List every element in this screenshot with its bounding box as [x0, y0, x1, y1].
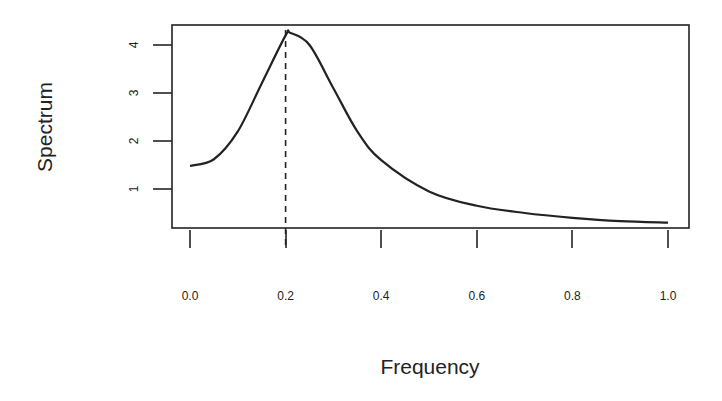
y-axis: [153, 45, 172, 189]
x-tick-label: 0.8: [564, 289, 581, 303]
y-tick-label: 1: [127, 185, 141, 192]
x-tick-label: 1.0: [660, 289, 677, 303]
x-tick-label: 0.2: [277, 289, 294, 303]
y-tick-label: 2: [127, 137, 141, 144]
y-tick-label: 4: [127, 41, 141, 48]
x-tick-label: 0.6: [468, 289, 485, 303]
spectrum-curve: [190, 30, 668, 222]
x-tick-label: 0.0: [182, 289, 199, 303]
x-axis: [190, 230, 668, 248]
x-tick-label: 0.4: [373, 289, 390, 303]
x-axis-title: Frequency: [380, 355, 480, 378]
y-tick-label: 3: [127, 89, 141, 96]
spectrum-chart: 0.00.20.40.60.81.0 1234 Frequency Spectr…: [0, 0, 722, 401]
x-tick-labels: 0.00.20.40.60.81.0: [182, 289, 677, 303]
y-axis-title: Spectrum: [33, 82, 56, 172]
y-tick-labels: 1234: [127, 41, 141, 192]
plot-frame: [172, 25, 689, 228]
